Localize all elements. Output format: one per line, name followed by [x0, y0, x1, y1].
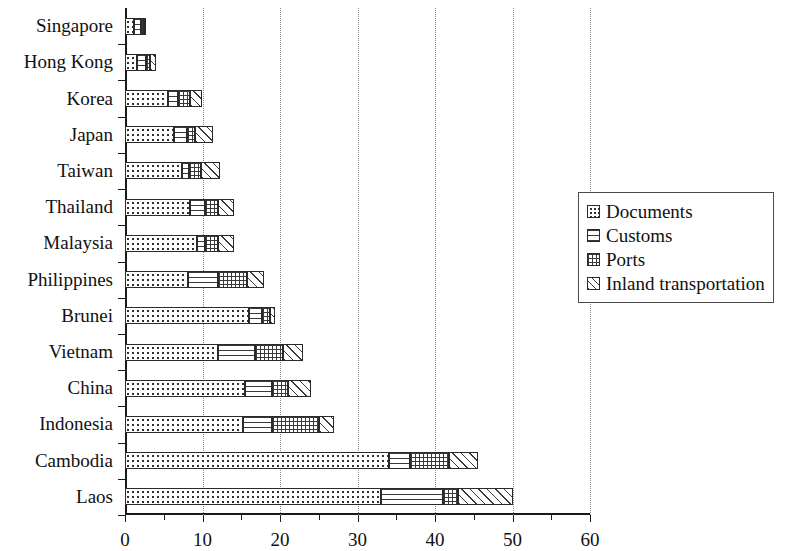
gridline-x-20: [280, 8, 282, 515]
bar-row: [125, 199, 590, 216]
bar-segment-inland-transportation: [270, 307, 275, 324]
bar-segment-documents: [125, 307, 249, 324]
category-label-taiwan: Taiwan: [57, 161, 113, 180]
bar-segment-documents: [125, 126, 174, 143]
stacked-bar-chart: SingaporeHong KongKoreaJapanTaiwanThaila…: [0, 0, 805, 551]
category-label-laos: Laos: [76, 487, 113, 506]
legend-swatch-customs-icon: [587, 229, 600, 242]
bar-segment-documents: [125, 54, 137, 71]
x-tick-40: [435, 515, 436, 522]
bar-segment-inland-transportation: [458, 488, 512, 505]
bar-row: [125, 452, 590, 469]
category-label-singapore: Singapore: [36, 16, 113, 35]
y-tick-10: [118, 370, 125, 371]
bar-segment-documents: [125, 380, 245, 397]
bar-segment-customs: [168, 90, 178, 107]
bar-segment-inland-transportation: [218, 199, 234, 216]
category-label-indonesia: Indonesia: [39, 414, 113, 433]
y-tick-12: [118, 443, 125, 444]
category-label-korea: Korea: [67, 89, 113, 108]
y-tick-6: [118, 225, 125, 226]
x-tick-label-50: 50: [503, 530, 522, 549]
legend-item-inland-transportation[interactable]: Inland transportation: [587, 271, 765, 295]
plot-area: 0102030405060: [125, 8, 590, 515]
bar-segment-ports: [187, 126, 195, 143]
bar-row: [125, 271, 590, 288]
bar-segment-ports: [262, 307, 270, 324]
legend-item-ports[interactable]: Ports: [587, 247, 765, 271]
bar-segment-customs: [197, 235, 205, 252]
category-label-china: China: [68, 378, 113, 397]
bar-segment-inland-transportation: [144, 18, 146, 35]
bar-segment-inland-transportation: [195, 126, 213, 143]
bar-segment-ports: [255, 344, 283, 361]
y-tick-14: [118, 515, 125, 516]
bar-segment-documents: [125, 344, 218, 361]
bar-segment-documents: [125, 452, 389, 469]
bar-row: [125, 344, 590, 361]
bar-segment-ports: [205, 235, 218, 252]
y-tick-8: [118, 298, 125, 299]
y-tick-5: [118, 189, 125, 190]
bar-row: [125, 126, 590, 143]
bar-row: [125, 54, 590, 71]
x-tick-label-40: 40: [426, 530, 445, 549]
bar-segment-ports: [189, 162, 201, 179]
x-tick-minor-25: [319, 515, 320, 520]
gridline-x-40: [435, 8, 437, 515]
bar-segment-inland-transportation: [283, 344, 303, 361]
x-tick-minor-5: [164, 515, 165, 520]
y-tick-7: [118, 262, 125, 263]
y-tick-11: [118, 406, 125, 407]
bar-segment-inland-transportation: [201, 162, 220, 179]
category-label-vietnam: Vietnam: [49, 342, 113, 361]
legend-label: Ports: [606, 250, 645, 269]
bar-segment-customs: [389, 452, 411, 469]
bar-segment-ports: [443, 488, 459, 505]
category-label-japan: Japan: [70, 125, 113, 144]
bar-segment-customs: [190, 199, 205, 216]
category-label-brunei: Brunei: [61, 306, 113, 325]
bar-row: [125, 416, 590, 433]
bar-segment-customs: [218, 344, 255, 361]
category-label-thailand: Thailand: [45, 197, 113, 216]
bar-segment-customs: [137, 54, 146, 71]
bar-segment-documents: [125, 416, 243, 433]
legend-swatch-inland-transportation-icon: [587, 277, 600, 290]
category-label-hong-kong: Hong Kong: [24, 52, 113, 71]
legend-item-documents[interactable]: Documents: [587, 199, 765, 223]
bar-segment-customs: [243, 416, 272, 433]
bar-segment-inland-transportation: [319, 416, 335, 433]
chart-legend: DocumentsCustomsPortsInland transportati…: [578, 192, 774, 303]
category-label-malaysia: Malaysia: [43, 233, 113, 252]
bar-segment-ports: [178, 90, 190, 107]
legend-item-customs[interactable]: Customs: [587, 223, 765, 247]
y-tick-13: [118, 479, 125, 480]
bar-segment-customs: [249, 307, 262, 324]
bar-row: [125, 18, 590, 35]
bar-row: [125, 307, 590, 324]
legend-label: Documents: [606, 202, 693, 221]
x-tick-label-30: 30: [348, 530, 367, 549]
bar-row: [125, 380, 590, 397]
x-tick-30: [358, 515, 359, 522]
bar-row: [125, 162, 590, 179]
bar-segment-documents: [125, 199, 190, 216]
bar-segment-inland-transportation: [190, 90, 202, 107]
x-tick-60: [590, 515, 591, 522]
y-tick-2: [118, 80, 125, 81]
category-label-philippines: Philippines: [27, 270, 113, 289]
bar-row: [125, 90, 590, 107]
bar-row: [125, 488, 590, 505]
bar-segment-ports: [272, 416, 319, 433]
bar-segment-customs: [174, 126, 187, 143]
gridline-x-50: [513, 8, 515, 515]
x-tick-minor-15: [241, 515, 242, 520]
bar-segment-inland-transportation: [449, 452, 478, 469]
x-tick-label-20: 20: [271, 530, 290, 549]
y-tick-1: [118, 44, 125, 45]
legend-swatch-documents-icon: [587, 205, 600, 218]
x-tick-50: [513, 515, 514, 522]
y-tick-9: [118, 334, 125, 335]
gridline-x-30: [358, 8, 360, 515]
